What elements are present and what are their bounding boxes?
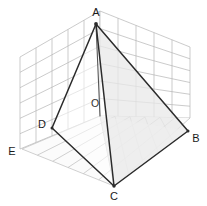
vertex-dot-d (51, 127, 54, 130)
vertex-dot-c (112, 184, 115, 187)
label-a: A (92, 6, 100, 18)
label-d: D (38, 118, 46, 130)
geometry-figure: A B C D O E (0, 0, 207, 206)
vertex-dot-a (94, 22, 98, 26)
label-e: E (8, 145, 15, 157)
label-o: O (91, 97, 99, 109)
label-c: C (110, 190, 118, 202)
geometry-canvas: A B C D O E (0, 0, 207, 206)
vertex-dot-b (187, 130, 190, 133)
label-b: B (192, 132, 199, 144)
